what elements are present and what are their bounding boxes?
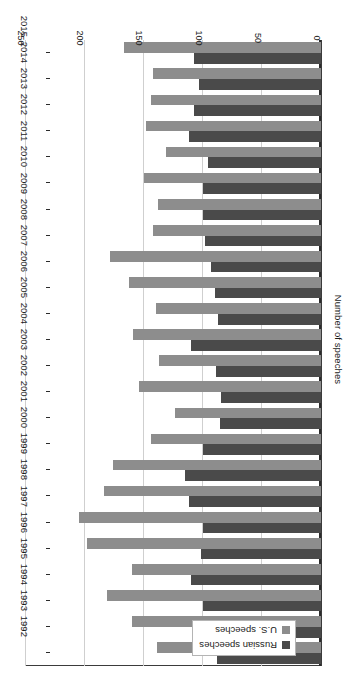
bar-group — [26, 460, 321, 481]
bar — [203, 444, 321, 455]
bar-group — [26, 564, 321, 585]
bar-group — [26, 95, 321, 116]
bar — [87, 538, 321, 549]
category-tick-label: 1996 — [20, 511, 31, 532]
bar — [110, 251, 321, 262]
bar — [104, 486, 321, 497]
value-axis-title-text: Number of speeches — [333, 295, 344, 384]
category-tick-label: 2002 — [20, 355, 31, 376]
category-tickmark — [46, 548, 50, 549]
category-tickmark — [46, 391, 50, 392]
category-tickmark — [46, 339, 50, 340]
bar-group — [26, 381, 321, 402]
bar-group — [26, 329, 321, 350]
rotated-chart-stage: Number of speeches 050100150200250 19921… — [0, 0, 348, 680]
bar — [151, 95, 321, 106]
bar-group — [26, 512, 321, 533]
category-tick-label: 2004 — [20, 303, 31, 324]
category-tickmark — [46, 104, 50, 105]
bar-group — [26, 434, 321, 455]
bar — [203, 210, 321, 221]
plot-inner — [26, 40, 321, 666]
value-tick-label: 0 — [312, 35, 322, 40]
category-tickmark — [46, 443, 50, 444]
category-tick-label: 2015 — [20, 16, 31, 37]
category-tickmark — [46, 522, 50, 523]
bar — [158, 199, 321, 210]
legend-swatch-icon — [282, 642, 290, 650]
bar — [205, 236, 321, 247]
category-tickmark — [46, 626, 50, 627]
bar — [194, 53, 321, 64]
bar-group — [26, 590, 321, 611]
category-tickmark — [46, 78, 50, 79]
bar-group — [26, 277, 321, 298]
value-axis-title: Number of speeches — [330, 0, 346, 680]
bar-group — [26, 355, 321, 376]
category-tickmark — [46, 287, 50, 288]
plot-area — [26, 40, 322, 666]
category-tickmark — [46, 182, 50, 183]
bar — [159, 355, 321, 366]
bar — [153, 68, 321, 79]
value-tick-label: 200 — [75, 30, 85, 45]
bar-group — [26, 303, 321, 324]
category-tickmark — [46, 417, 50, 418]
bar-group — [26, 147, 321, 168]
bar — [175, 408, 321, 419]
bar — [221, 392, 321, 403]
bar — [144, 173, 321, 184]
category-tickmark — [46, 261, 50, 262]
legend-label: U.S. speeches — [215, 625, 277, 636]
value-tick-label: 50 — [253, 33, 263, 43]
category-tickmark — [46, 495, 50, 496]
bar — [133, 329, 321, 340]
bar — [189, 131, 321, 142]
bar — [215, 288, 321, 299]
bar — [79, 512, 321, 523]
category-tick-label: 2012 — [20, 94, 31, 115]
bar-group — [26, 225, 321, 246]
bar — [132, 564, 321, 575]
bar-group — [26, 486, 321, 507]
bar-group — [26, 42, 321, 63]
category-tick-label: 1992 — [20, 616, 31, 637]
bar — [166, 147, 321, 158]
category-tick-label: 2003 — [20, 329, 31, 350]
bar-group — [26, 173, 321, 194]
bar — [113, 460, 321, 471]
category-tick-label: 1993 — [20, 590, 31, 611]
value-tick-label: 100 — [194, 30, 204, 45]
bar — [191, 575, 321, 586]
category-tickmark — [46, 156, 50, 157]
bar — [156, 303, 321, 314]
bar — [139, 381, 321, 392]
bar — [203, 523, 321, 534]
category-tick-label: 1995 — [20, 538, 31, 559]
value-tick-labels: 050100150200250 — [26, 22, 322, 38]
category-tick-label: 2009 — [20, 172, 31, 193]
category-tickmark — [46, 209, 50, 210]
bar — [146, 121, 321, 132]
legend-item: Russian speeches — [199, 640, 290, 651]
bar — [107, 590, 321, 601]
value-tick-label: 150 — [134, 30, 144, 45]
category-tick-label: 1998 — [20, 459, 31, 480]
category-tickmark — [46, 365, 50, 366]
category-tick-label: 2006 — [20, 251, 31, 272]
category-tick-label: 2007 — [20, 225, 31, 246]
bar — [151, 434, 321, 445]
bar-group — [26, 408, 321, 429]
bar — [218, 314, 321, 325]
bar — [194, 105, 321, 116]
bar — [203, 601, 321, 612]
bar-group — [26, 199, 321, 220]
category-axis: 1992199319941995199619971998199920002001… — [26, 40, 50, 666]
category-tickmark — [46, 469, 50, 470]
bar-group — [26, 251, 321, 272]
category-tick-label: 1997 — [20, 485, 31, 506]
bar — [216, 366, 321, 377]
category-tick-label: 2000 — [20, 407, 31, 428]
category-tick-label: 2013 — [20, 68, 31, 89]
bar — [201, 549, 321, 560]
